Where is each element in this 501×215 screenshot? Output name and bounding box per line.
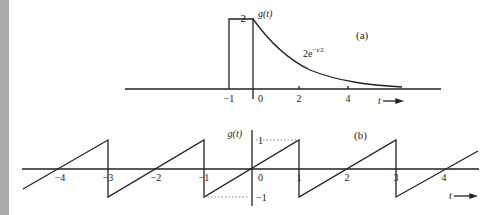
panel-b-tick-minus1: −1 [256, 192, 267, 203]
panel-a-peak-label: 2 [241, 12, 247, 24]
panel-b-label: (b) [354, 129, 367, 142]
panel-a-t-label: t [378, 95, 381, 106]
panel-a [125, 18, 441, 103]
panel-a-tick-4: 4 [346, 93, 351, 104]
panel-b-y-label: g(t) [228, 128, 243, 140]
signal-figure: 2 g(t) (a) 2e−t/2 −1 0 2 4 t g(t) 1 −1 (… [0, 0, 501, 215]
panel-a-exp-curve [253, 19, 402, 87]
panel-b-tick-plus1: 1 [258, 135, 263, 146]
panel-b-tick-neg1: −1 [199, 172, 210, 183]
panel-a-tick-2: 2 [297, 93, 302, 104]
panel-b-tick-3: 3 [394, 172, 399, 183]
panel-b-tick-0: 0 [258, 172, 263, 183]
panel-b-tick-4: 4 [442, 172, 447, 183]
curve-label: 2e−t/2 [303, 46, 324, 59]
panel-b-tick-neg4: −4 [55, 172, 66, 183]
panel-a-label: (a) [356, 29, 369, 42]
t-arrow-head-b [470, 194, 476, 198]
panel-a-pulse [229, 19, 253, 89]
panel-b-tick-neg3: −3 [103, 172, 114, 183]
panel-b-tick-1: 1 [297, 172, 302, 183]
panel-a-tick-neg1: −1 [224, 93, 235, 104]
panel-b-t-arrow [454, 194, 476, 198]
panel-a-y-label: g(t) [258, 8, 273, 20]
panel-b-tick-neg2: −2 [151, 172, 162, 183]
panel-a-tick-0: 0 [258, 93, 263, 104]
panel-b-t-label: t [449, 190, 452, 201]
t-arrow-head [396, 99, 402, 103]
panel-b-tick-2: 2 [345, 172, 350, 183]
panel-b [22, 130, 479, 206]
